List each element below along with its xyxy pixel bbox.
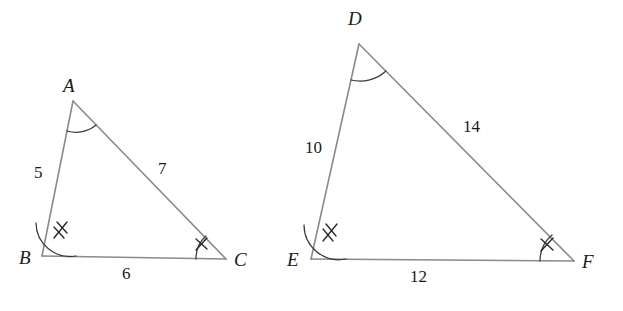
vertex-label-a: A (63, 76, 75, 95)
vertex-label-e: E (287, 250, 299, 269)
angle-arc-b (36, 223, 76, 257)
side-length-ac: 7 (158, 160, 167, 177)
angle-arc-d (351, 71, 386, 81)
side-length-df: 14 (463, 118, 480, 135)
side-length-ab: 5 (34, 164, 43, 181)
side-length-bc: 6 (122, 265, 131, 282)
side-length-ef: 12 (410, 268, 427, 285)
vertex-label-d: D (348, 9, 362, 28)
side-ef (311, 259, 574, 261)
triangle-abc (36, 101, 226, 259)
geometry-figure: A B C 5 7 6 D E F 10 14 12 (0, 0, 623, 311)
angle-arc-a (67, 125, 96, 132)
vertex-label-f: F (582, 252, 594, 271)
side-length-de: 10 (305, 139, 322, 156)
vertex-label-b: B (19, 248, 31, 267)
angle-arc-e (304, 225, 346, 260)
triangle-def (304, 44, 574, 261)
side-df (359, 44, 574, 261)
vertex-label-c: C (234, 250, 247, 269)
